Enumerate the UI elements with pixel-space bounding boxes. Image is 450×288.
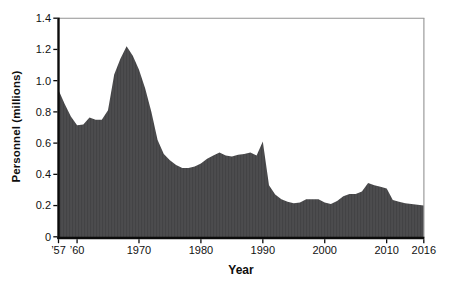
y-tick-label: 1.2 [36,43,51,55]
x-tick-label: 2016 [412,244,436,256]
x-tick-label: 1990 [251,244,275,256]
y-tick-label: 0.2 [36,199,51,211]
y-tick-label: 0.8 [36,106,51,118]
y-tick-label: 1.4 [36,12,51,24]
x-tick-label: 2010 [374,244,398,256]
x-tick-label: 1980 [189,244,213,256]
y-tick-label: 0.6 [36,137,51,149]
x-tick-label: ’57 [51,244,66,256]
personnel-area-chart: 00.20.40.60.81.01.21.4’57’60197019801990… [0,0,450,288]
x-tick-label: ’60 [70,244,85,256]
x-axis-title: Year [181,263,301,278]
y-tick-label: 0.4 [36,168,51,180]
personnel-area [59,46,424,238]
x-tick-label: 1970 [127,244,151,256]
y-tick-label: 0 [45,231,51,243]
x-tick-label: 2000 [312,244,336,256]
y-axis-title: Personnel (millions) [10,17,25,237]
chart-canvas: 00.20.40.60.81.01.21.4’57’60197019801990… [0,0,450,288]
y-tick-label: 1.0 [36,75,51,87]
